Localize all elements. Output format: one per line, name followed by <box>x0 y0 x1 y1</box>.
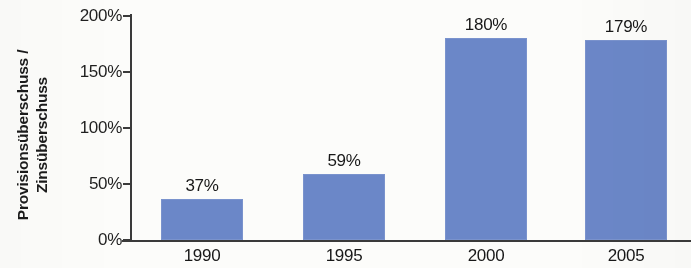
bar-group-1995: 59% 1995 <box>303 0 385 268</box>
y-tick-label-0: 0% <box>54 230 122 250</box>
bar-value-1990: 37% <box>139 176 265 196</box>
bar-2005 <box>585 40 667 240</box>
x-tick-label-1995: 1995 <box>281 246 407 266</box>
y-axis-tick-labels: 200% 150% 100% 50% 0% <box>54 0 122 268</box>
bar-1990 <box>161 199 243 240</box>
bar-group-2005: 179% 2005 <box>585 0 667 268</box>
x-tick-label-2005: 2005 <box>563 246 689 266</box>
bar-2000 <box>445 38 527 240</box>
y-axis-title-line-1: Provisionsüberschuss / <box>13 50 32 220</box>
y-axis-title-line-2: Zinsüberschuss <box>32 77 51 193</box>
y-tick-label-50: 50% <box>54 174 122 194</box>
y-tick-label-100: 100% <box>54 118 122 138</box>
bar-group-2000: 180% 2000 <box>445 0 527 268</box>
y-tick-label-150: 150% <box>54 62 122 82</box>
bar-value-2005: 179% <box>563 17 689 37</box>
bar-group-1990: 37% 1990 <box>161 0 243 268</box>
plot-area: 37% 1990 59% 1995 180% 2000 179% 2005 <box>132 0 691 268</box>
y-axis-title: Provisionsüberschuss / Zinsüberschuss <box>9 10 55 260</box>
y-tick-label-200: 200% <box>54 6 122 26</box>
x-tick-label-2000: 2000 <box>423 246 549 266</box>
bar-value-1995: 59% <box>281 151 407 171</box>
bar-1995 <box>303 174 385 240</box>
bar-chart: Provisionsüberschuss / Zinsüberschuss 20… <box>0 0 691 268</box>
bar-value-2000: 180% <box>423 15 549 35</box>
x-tick-label-1990: 1990 <box>139 246 265 266</box>
